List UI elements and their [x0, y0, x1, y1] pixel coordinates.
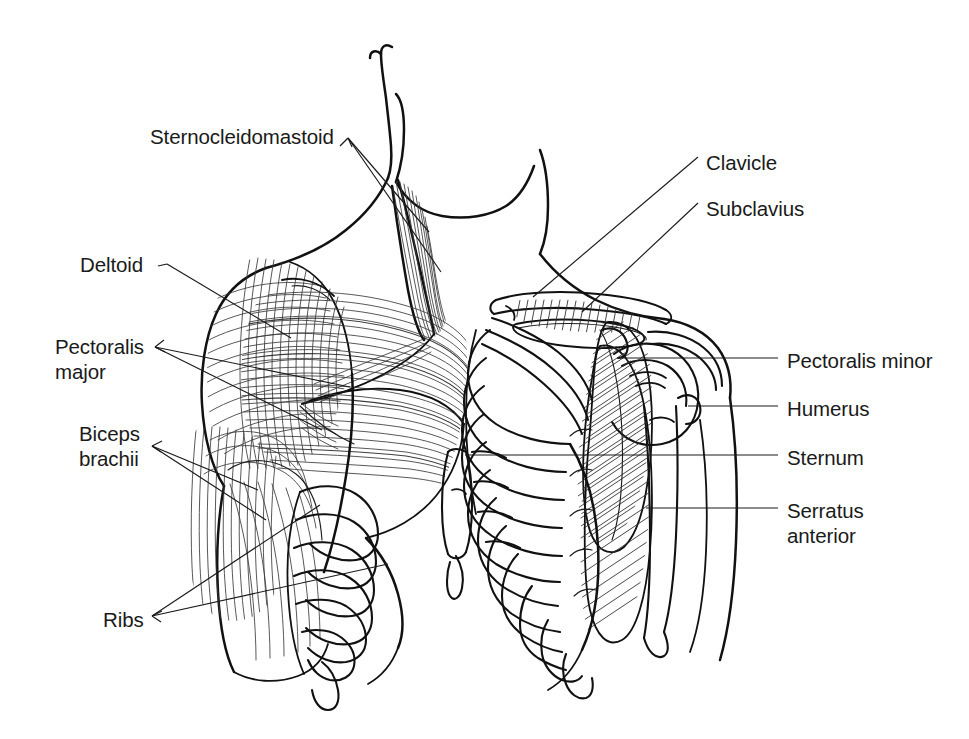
label-subclavius: Subclavius	[706, 196, 804, 221]
rib-cage-left	[288, 486, 403, 710]
label-deltoid: Deltoid	[80, 252, 143, 277]
label-pectoralis-major-line2: major	[55, 359, 106, 384]
leader-subclavius	[582, 203, 698, 312]
label-sternum: Sternum	[787, 445, 864, 470]
label-ribs: Ribs	[103, 607, 144, 632]
label-serratus-anterior-line1: Serratus	[787, 498, 864, 523]
label-biceps-brachii-line2: brachii	[79, 446, 139, 471]
label-clavicle: Clavicle	[706, 150, 777, 175]
sternum-bone	[442, 449, 472, 599]
label-serratus-anterior-line2: anterior	[787, 523, 856, 548]
label-biceps-brachii-line1: Biceps	[79, 421, 140, 446]
pectoralis-major-muscle	[240, 292, 470, 538]
pectoralis-minor-muscle	[560, 260, 680, 568]
label-pectoralis-minor: Pectoralis minor	[787, 348, 932, 373]
anatomy-diagram: Sternocleidomastoid Deltoid Pectoralis m…	[0, 0, 969, 739]
rib-cage-right	[462, 318, 598, 698]
label-humerus: Humerus	[787, 396, 869, 421]
right-arm-outline	[690, 398, 737, 660]
head-and-neck-outline	[266, 45, 664, 319]
label-sternocleidomastoid: Sternocleidomastoid	[150, 124, 334, 149]
leader-ribs	[152, 505, 388, 622]
label-pectoralis-major-line1: Pectoralis	[55, 334, 144, 359]
